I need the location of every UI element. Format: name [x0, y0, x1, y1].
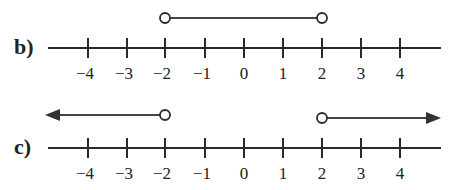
tick-label: 3: [357, 64, 366, 84]
number-lines-figure: [0, 0, 451, 190]
open-circle-left-c: [160, 110, 170, 120]
tick-label: −4: [76, 164, 94, 184]
open-circle-left-b: [160, 13, 170, 23]
number-line-c: [45, 109, 441, 158]
arrow-left-icon: [45, 109, 60, 121]
tick-label: 2: [318, 64, 327, 84]
tick-label: −3: [115, 164, 133, 184]
number-line-b: [48, 13, 441, 58]
tick-label: 0: [240, 164, 249, 184]
tick-label: 4: [396, 164, 405, 184]
tick-label: 4: [396, 64, 405, 84]
tick-label: 1: [279, 164, 288, 184]
problem-label-c: c): [14, 134, 31, 160]
tick-label: −2: [153, 164, 171, 184]
arrow-right-icon: [426, 112, 441, 124]
tick-label: −2: [153, 64, 171, 84]
open-circle-right-c: [317, 113, 327, 123]
tick-label: −1: [193, 64, 211, 84]
tick-label: −4: [76, 64, 94, 84]
tick-label: 1: [279, 64, 288, 84]
problem-label-b: b): [14, 34, 34, 60]
tick-label: −3: [115, 64, 133, 84]
open-circle-right-b: [317, 13, 327, 23]
tick-label: −1: [193, 164, 211, 184]
tick-label: 0: [240, 64, 249, 84]
tick-label: 2: [318, 164, 327, 184]
tick-label: 3: [357, 164, 366, 184]
